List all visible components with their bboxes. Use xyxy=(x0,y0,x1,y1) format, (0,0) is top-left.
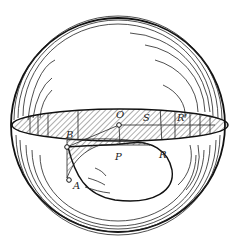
point-B xyxy=(65,145,70,150)
label-R: R xyxy=(158,149,167,160)
label-O: O xyxy=(116,109,124,120)
label-B: B xyxy=(65,129,73,140)
label-R-prime: R' xyxy=(176,112,187,123)
upper-shells xyxy=(14,16,222,120)
point-A xyxy=(67,178,72,183)
sphere-diagram: O S R' B P R A xyxy=(0,0,235,250)
label-A: A xyxy=(72,180,80,191)
point-O xyxy=(117,123,122,128)
label-S: S xyxy=(143,112,150,123)
label-P: P xyxy=(114,151,122,162)
